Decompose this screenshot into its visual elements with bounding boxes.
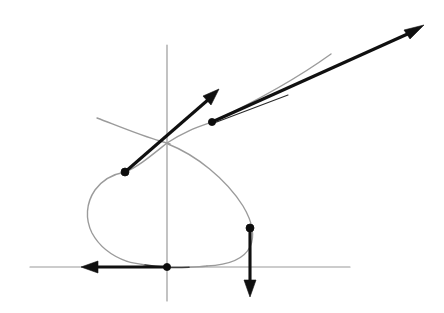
point-on-upper-left-branch (121, 168, 129, 176)
point-on-upper-right-branch (208, 118, 215, 125)
curve-diagram-svg (0, 0, 444, 313)
point-at-origin (163, 263, 170, 270)
point-on-right-loop (246, 224, 254, 232)
figure-canvas (0, 0, 444, 313)
